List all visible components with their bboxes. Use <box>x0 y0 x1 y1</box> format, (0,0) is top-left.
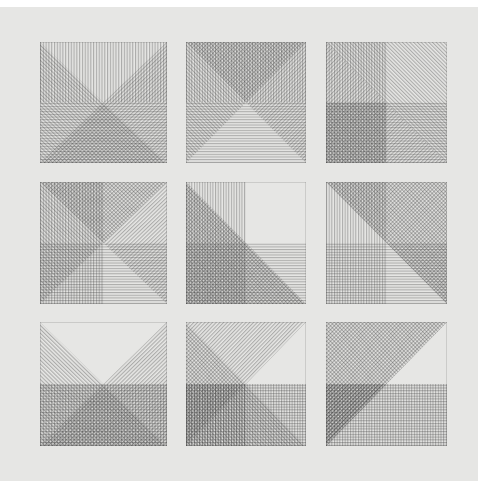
etching-panel-r1c3 <box>326 42 447 163</box>
etching-panel-r3c3 <box>326 322 447 446</box>
etching-panel-r2c3 <box>326 182 447 304</box>
etching-panel-r2c2 <box>186 182 306 304</box>
etching-panel-r2c1 <box>40 182 167 304</box>
etching-panel-r1c1 <box>40 42 167 163</box>
etching-panel-r3c1 <box>40 322 167 446</box>
etching-panel-r1c2 <box>186 42 306 163</box>
etching-panel-r3c2 <box>186 322 306 446</box>
